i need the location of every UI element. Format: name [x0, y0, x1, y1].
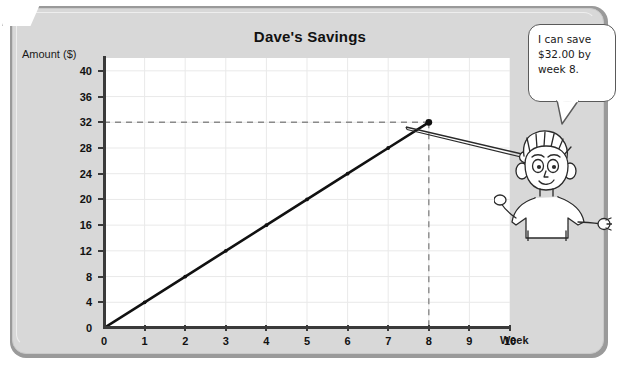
speech-bubble-line-1: I can save — [538, 32, 607, 47]
y-tick-mark — [98, 301, 104, 303]
x-tick-label: 1 — [135, 336, 155, 346]
y-tick-mark — [98, 121, 104, 123]
x-tick-label: 10 — [500, 336, 520, 346]
y-tick-mark — [98, 224, 104, 226]
x-tick-mark — [428, 325, 430, 331]
page-root: Dave's Savings Amount ($) Week 048121620… — [0, 0, 622, 368]
x-tick-label: 8 — [419, 336, 439, 346]
plot-svg — [104, 58, 510, 328]
y-tick-label: 28 — [58, 143, 92, 153]
x-tick-label: 7 — [378, 336, 398, 346]
speech-bubble: I can save $32.00 by week 8. — [528, 24, 616, 102]
speech-bubble-line-2: $32.00 by — [538, 47, 607, 62]
y-tick-mark — [98, 147, 104, 149]
gridlines — [104, 58, 510, 328]
x-tick-mark — [347, 325, 349, 331]
x-tick-mark — [468, 325, 470, 331]
x-tick-mark — [509, 325, 511, 331]
y-tick-label: 12 — [58, 246, 92, 256]
x-tick-label: 3 — [216, 336, 236, 346]
x-tick-label: 9 — [459, 336, 479, 346]
x-tick-mark — [387, 325, 389, 331]
y-tick-label: 4 — [58, 297, 92, 307]
x-tick-label: 6 — [338, 336, 358, 346]
speech-bubble-tail — [556, 100, 582, 126]
x-tick-label: 2 — [175, 336, 195, 346]
y-tick-mark — [98, 96, 104, 98]
x-tick-mark — [265, 325, 267, 331]
y-tick-label: 20 — [58, 194, 92, 204]
x-tick-label: 5 — [297, 336, 317, 346]
speech-bubble-line-3: week 8. — [538, 62, 607, 77]
y-tick-mark — [98, 198, 104, 200]
y-tick-label: 36 — [58, 92, 92, 102]
chart-title: Dave's Savings — [120, 28, 500, 45]
y-axis-title: Amount ($) — [22, 48, 76, 60]
x-tick-label: 4 — [256, 336, 276, 346]
y-tick-mark — [98, 276, 104, 278]
x-tick-label: 0 — [94, 336, 114, 346]
plot-area — [104, 58, 510, 328]
y-tick-label: 24 — [58, 169, 92, 179]
x-tick-mark — [225, 325, 227, 331]
x-tick-mark — [184, 325, 186, 331]
y-tick-label: 40 — [58, 66, 92, 76]
boy-character-illustration — [494, 126, 612, 241]
y-tick-label: 16 — [58, 220, 92, 230]
y-tick-label: 8 — [58, 272, 92, 282]
x-tick-mark — [306, 325, 308, 331]
x-tick-mark — [144, 325, 146, 331]
y-tick-label: 32 — [58, 117, 92, 127]
y-tick-label: 0 — [58, 323, 92, 333]
y-tick-mark — [98, 173, 104, 175]
y-tick-mark — [98, 70, 104, 72]
y-tick-mark — [98, 250, 104, 252]
